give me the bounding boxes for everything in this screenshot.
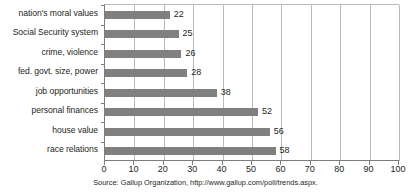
category-axis-tick: [101, 142, 105, 143]
bar: [105, 89, 217, 97]
gridline: [134, 5, 135, 161]
x-axis-tick-label: 70: [305, 164, 315, 174]
source-note: Source: Gallup Organization, http://www.…: [0, 178, 411, 187]
gridline: [399, 5, 400, 161]
gridline: [252, 5, 253, 161]
bar: [105, 147, 276, 155]
chart-plot-region: nation's moral valuesSocial Security sys…: [0, 0, 411, 168]
gridline: [370, 5, 371, 161]
bar: [105, 11, 170, 19]
bar: [105, 50, 181, 58]
bar-value-label: 25: [183, 29, 193, 38]
x-axis-tick-label: 90: [364, 164, 374, 174]
gridline: [281, 5, 282, 161]
gridline: [193, 5, 194, 161]
category-axis-tick: [101, 122, 105, 123]
bar-value-label: 22: [174, 10, 184, 19]
x-axis-tick-label: 50: [246, 164, 256, 174]
category-axis: nation's moral valuesSocial Security sys…: [0, 4, 101, 160]
bar-value-label: 52: [262, 107, 272, 116]
gridline: [223, 5, 224, 161]
category-label: fed. govt. size, power: [0, 67, 98, 76]
category-axis-tick: [101, 44, 105, 45]
category-label: race relations: [0, 145, 98, 154]
gridline: [340, 5, 341, 161]
category-label: crime, violence: [0, 48, 98, 57]
x-axis-tick-label: 40: [217, 164, 227, 174]
x-axis-tick-label: 20: [158, 164, 168, 174]
bar-value-label: 26: [185, 49, 195, 58]
bar: [105, 30, 179, 38]
bar-chart-figure: nation's moral valuesSocial Security sys…: [0, 0, 411, 193]
category-axis-tick: [101, 64, 105, 65]
gridline: [164, 5, 165, 161]
x-axis-tick-label: 80: [334, 164, 344, 174]
category-axis-tick: [101, 5, 105, 6]
x-axis-tick-label: 60: [275, 164, 285, 174]
category-label: personal finances: [0, 106, 98, 115]
category-axis-tick: [101, 83, 105, 84]
x-axis-tick-label: 10: [128, 164, 138, 174]
x-axis-tick-label: 0: [101, 164, 106, 174]
category-label: nation's moral values: [0, 9, 98, 18]
bar-value-label: 28: [191, 68, 201, 77]
plot-area: 2225262838525658: [104, 4, 399, 161]
category-label: job opportunities: [0, 87, 98, 96]
bar-value-label: 58: [280, 146, 290, 155]
bar-value-label: 38: [221, 88, 231, 97]
x-axis-tick-label: 100: [390, 164, 405, 174]
bar: [105, 69, 187, 77]
bar: [105, 108, 258, 116]
category-label: Social Security system: [0, 28, 98, 37]
gridline: [311, 5, 312, 161]
category-axis-tick: [101, 103, 105, 104]
category-label: house value: [0, 126, 98, 135]
x-axis-tick-label: 30: [187, 164, 197, 174]
bar: [105, 128, 270, 136]
bar-value-label: 56: [274, 127, 284, 136]
category-axis-tick: [101, 25, 105, 26]
